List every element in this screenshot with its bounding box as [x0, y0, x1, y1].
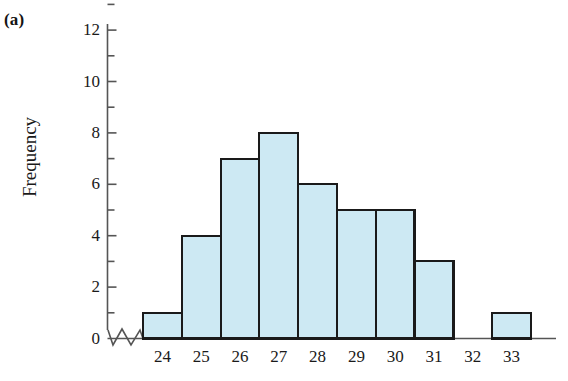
histogram-figure: (a) Frequency 0 2 4 6 8 10 12 24 25 26 2… [0, 0, 568, 381]
histogram-bar [376, 210, 415, 339]
axis-break-icon [108, 329, 143, 345]
histogram-bar [492, 313, 531, 339]
histogram-bar [182, 236, 221, 339]
histogram-bar [298, 184, 337, 338]
histogram-bar [259, 133, 298, 339]
y-axis-ticks [108, 4, 117, 312]
histogram-plot-area [0, 0, 568, 381]
histogram-bar [415, 261, 454, 338]
histogram-bar [221, 159, 260, 339]
histogram-bars [143, 133, 531, 339]
histogram-bar [337, 210, 376, 339]
histogram-bar [143, 313, 182, 339]
